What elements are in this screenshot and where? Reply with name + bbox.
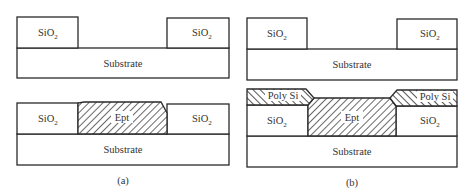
substrate-label: Substrate xyxy=(332,59,371,70)
panel-b: SiO2 SiO2 Substrate Poly Si Poly Si Ept … xyxy=(247,18,457,189)
substrate-label: Substrate xyxy=(103,58,142,69)
panel-a-top-stage: SiO2 SiO2 Substrate xyxy=(17,17,229,78)
panel-a-caption: (a) xyxy=(117,175,129,187)
panel-b-top-stage: SiO2 SiO2 Substrate xyxy=(247,18,457,80)
epi-label: Ept xyxy=(115,112,130,123)
panel-a-bottom-stage: Ept SiO2 SiO2 Substrate xyxy=(17,102,229,165)
substrate-label: Substrate xyxy=(332,146,371,157)
process-diagram: SiO2 SiO2 Substrate Ept SiO2 SiO2 Substr… xyxy=(0,0,470,193)
poly-left-label: Poly Si xyxy=(268,90,299,101)
epi-label: Ept xyxy=(345,112,360,123)
poly-right-label: Poly Si xyxy=(420,91,451,102)
panel-b-caption: (b) xyxy=(346,177,359,189)
panel-a: SiO2 SiO2 Substrate Ept SiO2 SiO2 Substr… xyxy=(17,17,229,187)
panel-b-bottom-stage: Poly Si Poly Si Ept SiO2 SiO2 Substrate xyxy=(247,89,457,167)
substrate-label: Substrate xyxy=(103,144,142,155)
